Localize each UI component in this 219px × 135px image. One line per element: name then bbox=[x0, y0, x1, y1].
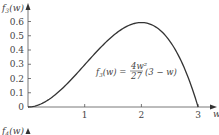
y-tick-label: 0.2 bbox=[10, 74, 24, 84]
y-tick-label: 0.4 bbox=[10, 45, 25, 55]
y-tick-label: 0.6 bbox=[10, 17, 25, 27]
y-tick-label: 0 bbox=[18, 102, 24, 112]
next-y-axis-arrow bbox=[26, 128, 31, 134]
x-tick-label: 3 bbox=[195, 110, 201, 120]
y-tick-label: 0.5 bbox=[10, 31, 25, 41]
next-panel-label: f4(w) bbox=[1, 126, 24, 135]
next-label-part: (w) bbox=[9, 126, 24, 135]
y-axis-label: f3(w) bbox=[1, 3, 24, 14]
formula-lhs: f3(w) = bbox=[95, 67, 126, 78]
y-tick-label: 0.3 bbox=[10, 59, 25, 69]
y-label-arg: (w) bbox=[9, 3, 24, 13]
x-tick-label: 1 bbox=[82, 110, 88, 120]
formula-lhs-part: (w) = bbox=[103, 67, 127, 77]
formula-annotation: f3(w) = 4w² 27 (3 − w) bbox=[95, 61, 177, 81]
series-line-f3 bbox=[28, 23, 198, 107]
x-tick-label: 2 bbox=[139, 110, 145, 120]
formula-rhs: (3 − w) bbox=[145, 67, 177, 77]
formula-denominator: 27 bbox=[130, 71, 142, 81]
y-tick-label: 0.1 bbox=[10, 88, 24, 98]
y-axis-arrow bbox=[26, 3, 31, 10]
x-ticks: 123 bbox=[82, 104, 201, 120]
chart: 00.10.20.30.40.50.6 123 f3(w) w f3(w) = … bbox=[0, 0, 219, 135]
x-axis-label: w bbox=[213, 109, 219, 119]
